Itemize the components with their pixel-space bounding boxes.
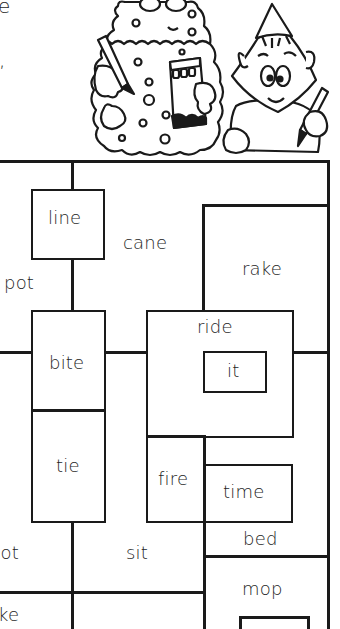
word-pot: pot [4,272,34,293]
maze-wall [239,616,309,619]
word-time: time [223,481,264,502]
maze-wall [203,204,329,207]
word-bed: bed [243,528,278,549]
maze-right-border [327,160,330,629]
characters-illustration [0,0,340,165]
word-rake: rake [242,258,282,279]
word-sit: sit [126,542,148,563]
maze-wall [203,555,329,558]
maze-wall [104,351,148,354]
word-fire: fire [158,468,188,489]
word-cane: cane [123,232,167,253]
maze-wall [239,616,242,629]
party-hat-icon [256,4,292,38]
word-hot: hot [0,542,19,563]
maze-wall [0,591,205,594]
word-bite: bite [49,352,84,373]
word-mop: mop [242,578,283,599]
word-line: line [48,207,81,228]
word-ke: ke [0,604,19,625]
maze-wall [307,616,310,629]
maze-top-border [0,160,330,163]
maze-wall [71,258,74,312]
crayon-box-monster [91,0,223,155]
maze-wall [292,351,329,354]
party-hat-boy [223,4,328,153]
word-ride: ride [197,316,233,337]
maze-wall [71,160,74,191]
word-tie: tie [56,455,80,476]
maze-wall [202,204,205,312]
maze-wall [71,521,74,629]
maze-wall [0,351,33,354]
word-it: it [227,360,239,381]
